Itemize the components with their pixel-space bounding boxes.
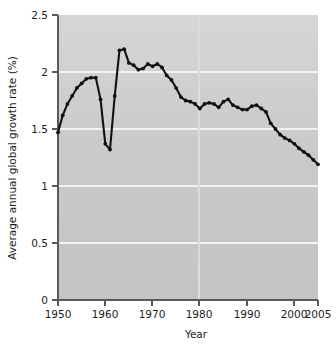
data-point	[207, 101, 211, 105]
data-point	[311, 158, 315, 162]
plot-area-background	[58, 15, 318, 300]
data-point	[103, 142, 107, 146]
data-point	[288, 139, 292, 143]
data-point	[278, 133, 282, 137]
data-point	[165, 74, 169, 78]
data-point	[66, 102, 70, 106]
data-point	[174, 86, 178, 90]
data-point	[75, 86, 79, 90]
data-point	[217, 105, 221, 109]
data-point	[259, 107, 263, 111]
data-point	[222, 100, 226, 104]
y-tick-label-0: 0	[41, 294, 48, 306]
data-point	[70, 94, 74, 98]
data-point	[132, 63, 136, 67]
data-point	[108, 148, 112, 152]
data-point	[151, 64, 155, 68]
chart-figure: 0 0.5 1 1.5 2 2.5 1950 1960 1970 1980 19…	[0, 0, 336, 349]
data-point	[84, 77, 88, 81]
y-tick-label-0.5: 0.5	[31, 237, 48, 249]
data-point	[316, 162, 320, 166]
data-point	[283, 136, 287, 140]
x-tick-label-1960: 1960	[92, 308, 119, 320]
data-point	[61, 113, 65, 117]
y-tick-label-2: 2	[41, 66, 48, 78]
x-tick-label-1980: 1980	[186, 308, 213, 320]
data-point	[274, 127, 278, 131]
data-point	[160, 66, 164, 70]
y-tick-label-1: 1	[41, 180, 48, 192]
data-point	[307, 153, 311, 157]
data-point	[297, 146, 301, 150]
x-tick-label-1970: 1970	[139, 308, 166, 320]
data-point	[184, 99, 188, 103]
data-point	[99, 97, 103, 101]
growth-rate-line-chart: 0 0.5 1 1.5 2 2.5 1950 1960 1970 1980 19…	[0, 0, 336, 349]
data-point	[231, 103, 235, 107]
data-point	[122, 47, 126, 51]
data-point	[56, 131, 60, 135]
x-tick-label-2005: 2005	[305, 308, 332, 320]
data-point	[193, 102, 197, 106]
data-point	[127, 61, 131, 65]
x-tick-label-2000: 2000	[281, 308, 308, 320]
data-point	[141, 67, 145, 71]
data-point	[269, 121, 273, 125]
data-point	[170, 78, 174, 82]
data-point	[236, 105, 240, 109]
data-point	[264, 110, 268, 114]
data-point	[118, 48, 122, 52]
y-tick-label-1.5: 1.5	[31, 123, 48, 135]
data-point	[179, 95, 183, 99]
y-axis-title: Average annual global growth rate (%)	[6, 56, 18, 260]
data-point	[198, 107, 202, 111]
data-point	[212, 102, 216, 106]
x-tick-label-1950: 1950	[45, 308, 72, 320]
data-point	[240, 108, 244, 112]
data-point	[188, 100, 192, 104]
data-point	[113, 94, 117, 98]
data-point	[226, 97, 230, 101]
y-tick-label-2.5: 2.5	[31, 9, 48, 21]
data-point	[89, 76, 93, 80]
data-point	[302, 150, 306, 154]
data-point	[146, 62, 150, 66]
x-tick-label-1990: 1990	[234, 308, 261, 320]
data-point	[203, 102, 207, 106]
data-point	[292, 142, 296, 146]
data-point	[155, 62, 159, 66]
data-point	[250, 104, 254, 108]
data-point	[136, 68, 140, 72]
x-axis-title: Year	[184, 328, 208, 340]
data-point	[245, 108, 249, 112]
data-point	[80, 82, 84, 86]
data-point	[255, 103, 259, 107]
data-point	[94, 76, 98, 80]
